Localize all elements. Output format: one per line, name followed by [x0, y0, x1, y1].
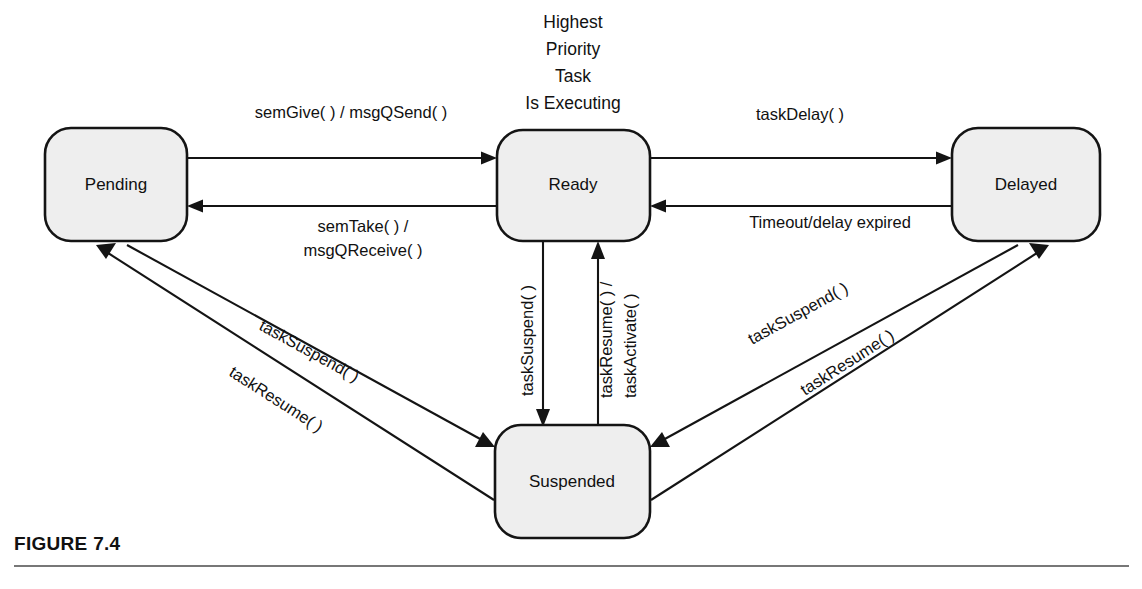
edge-label-ready-to-pending-line1: semTake( ) / [318, 217, 409, 235]
state-diagram: Highest Priority Task Is Executing semGi… [0, 0, 1142, 589]
edge-label-suspended-to-delayed: taskResume( ) [797, 326, 897, 399]
edge-label-ready-to-suspended: taskSuspend( ) [518, 285, 536, 396]
state-label-suspended: Suspended [529, 472, 615, 491]
edge-pending-to-ready [188, 152, 497, 165]
edge-label-ready-to-delayed: taskDelay( ) [756, 105, 844, 123]
arrowhead-icon [187, 200, 203, 213]
state-label-pending: Pending [85, 175, 147, 194]
arrowhead-icon [475, 432, 495, 447]
center-title-line-2: Priority [546, 39, 601, 59]
edge-suspended-to-pending [96, 243, 494, 500]
edge-delayed-to-suspended [650, 245, 1018, 447]
edge-label-suspended-to-pending: taskResume( ) [226, 362, 326, 435]
edge-label-suspended-to-ready-line2: taskActivate( ) [621, 293, 639, 398]
arrowhead-icon [936, 152, 952, 165]
center-title-line-4: Is Executing [525, 93, 620, 113]
arrowhead-icon [481, 152, 497, 165]
arrowhead-icon [650, 200, 666, 213]
edge-suspended-to-delayed [651, 243, 1049, 500]
state-node-delayed[interactable]: Delayed [952, 128, 1100, 241]
figure-container: Highest Priority Task Is Executing semGi… [0, 0, 1142, 589]
edge-line [663, 245, 1018, 440]
state-node-suspended[interactable]: Suspended [495, 425, 650, 538]
edge-label-pending-to-ready: semGive( ) / msgQSend( ) [255, 103, 448, 121]
arrowhead-icon [591, 241, 605, 259]
arrowhead-icon [650, 432, 670, 447]
edge-label-ready-to-pending-line2: msgQReceive( ) [303, 241, 422, 259]
center-title-line-3: Task [555, 66, 591, 86]
center-title-line-1: Highest [543, 12, 602, 32]
edge-label-delayed-to-suspended: taskSuspend( ) [745, 278, 851, 347]
edge-label-delayed-to-ready: Timeout/delay expired [749, 213, 911, 231]
state-node-pending[interactable]: Pending [45, 128, 187, 241]
edge-ready-to-suspended [536, 241, 550, 427]
caption-area: FIGURE 7.4 [0, 527, 1142, 589]
edge-line [108, 253, 494, 500]
edge-ready-to-delayed [651, 152, 952, 165]
caption-divider [14, 565, 1129, 567]
figure-caption: FIGURE 7.4 [14, 533, 120, 555]
edge-label-pending-to-suspended: taskSuspend( ) [257, 316, 363, 385]
state-node-ready[interactable]: Ready [497, 130, 650, 241]
state-label-ready: Ready [548, 175, 598, 194]
state-label-delayed: Delayed [995, 175, 1057, 194]
edge-label-suspended-to-ready-line1: taskResume( ) / [597, 281, 615, 398]
